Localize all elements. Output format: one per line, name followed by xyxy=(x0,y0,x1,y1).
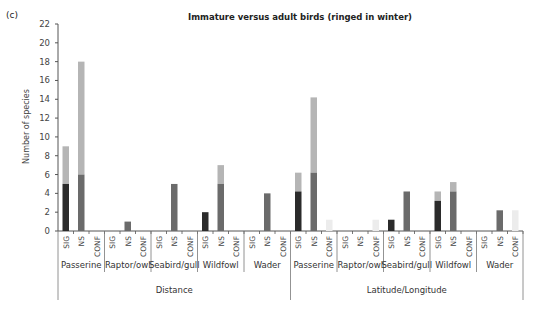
bar-lower-segment xyxy=(497,210,504,231)
x-sub-label: NS xyxy=(496,236,505,247)
x-sub-label: SIG xyxy=(294,236,303,249)
y-tick-label: 14 xyxy=(39,94,50,104)
x-group-label: Wildfowl xyxy=(435,260,471,270)
x-sub-label: NS xyxy=(170,236,179,247)
bar-upper-segment xyxy=(218,165,225,184)
x-group-label: Passerine xyxy=(293,260,334,270)
bar-lower-segment xyxy=(450,191,457,231)
y-tick-label: 6 xyxy=(45,170,50,180)
x-group-label: Passerine xyxy=(61,260,102,270)
bar-lower-segment xyxy=(388,220,395,231)
x-group-label: Raptor/owl xyxy=(337,260,383,270)
x-sub-label: CONF xyxy=(232,236,241,257)
bar-upper-segment xyxy=(78,62,85,175)
x-group-label: Wildfowl xyxy=(203,260,239,270)
bar-lower-segment xyxy=(218,184,225,231)
x-sub-label: NS xyxy=(263,236,272,247)
x-sub-label: SIG xyxy=(387,236,396,249)
x-sub-label: SIG xyxy=(480,236,489,249)
x-group-label: Seabird/gull xyxy=(149,260,200,270)
bar-upper-segment xyxy=(450,182,457,191)
x-sub-label: NS xyxy=(449,236,458,247)
y-tick-label: 12 xyxy=(39,113,50,123)
x-sub-label: NS xyxy=(124,236,133,247)
x-sub-label: CONF xyxy=(465,236,474,257)
bar-lower-segment xyxy=(295,191,302,231)
x-sub-label: SIG xyxy=(62,236,71,249)
x-sub-label: NS xyxy=(310,236,319,247)
bar-lower-segment xyxy=(78,175,85,231)
y-tick-label: 8 xyxy=(45,151,50,161)
bar-lower-segment xyxy=(311,173,318,231)
x-method-label: Distance xyxy=(156,285,193,295)
x-group-label: Seabird/gull xyxy=(381,260,432,270)
plot-area: 0246810121416182022SIGNSCONFSIGNSCONFSIG… xyxy=(0,0,540,312)
x-sub-label: CONF xyxy=(139,236,148,257)
y-axis-label: Number of species xyxy=(22,87,31,167)
bar-lower-segment xyxy=(202,212,209,231)
bar-upper-segment xyxy=(63,146,70,184)
x-sub-label: CONF xyxy=(93,236,102,257)
bar-lower-segment xyxy=(171,184,178,231)
x-sub-label: SIG xyxy=(248,236,257,249)
x-sub-label: NS xyxy=(356,236,365,247)
chart-title: Immature versus adult birds (ringed in w… xyxy=(0,12,540,22)
bar-lower-segment xyxy=(264,193,271,231)
y-tick-label: 2 xyxy=(45,207,50,217)
bar-lower-segment xyxy=(63,184,70,231)
bar-lower-segment xyxy=(404,191,411,231)
y-tick-label: 16 xyxy=(39,75,50,85)
y-tick-label: 0 xyxy=(45,226,50,236)
y-tick-label: 10 xyxy=(39,132,50,142)
bar-faint xyxy=(373,220,380,231)
bar-lower-segment xyxy=(125,222,132,231)
bar-upper-segment xyxy=(295,173,302,192)
bar-upper-segment xyxy=(311,97,318,172)
bar-chart: (c) Immature versus adult birds (ringed … xyxy=(0,0,540,312)
bar-lower-segment xyxy=(435,201,442,231)
x-group-label: Wader xyxy=(254,260,282,270)
x-sub-label: SIG xyxy=(108,236,117,249)
x-sub-label: NS xyxy=(77,236,86,247)
x-group-label: Raptor/owl xyxy=(105,260,151,270)
x-sub-label: CONF xyxy=(418,236,427,257)
x-sub-label: CONF xyxy=(186,236,195,257)
x-method-label: Latitude/Longitude xyxy=(367,285,447,295)
x-sub-label: CONF xyxy=(372,236,381,257)
x-sub-label: CONF xyxy=(511,236,520,257)
x-sub-label: CONF xyxy=(325,236,334,257)
x-sub-label: NS xyxy=(403,236,412,247)
x-group-label: Wader xyxy=(486,260,514,270)
x-sub-label: NS xyxy=(217,236,226,247)
bar-faint xyxy=(512,210,519,231)
y-tick-label: 4 xyxy=(45,188,50,198)
x-sub-label: SIG xyxy=(155,236,164,249)
bar-faint xyxy=(326,220,333,231)
y-tick-label: 20 xyxy=(39,38,50,48)
x-sub-label: SIG xyxy=(341,236,350,249)
bar-upper-segment xyxy=(435,191,442,200)
y-tick-label: 18 xyxy=(39,57,50,67)
x-sub-label: SIG xyxy=(434,236,443,249)
x-sub-label: SIG xyxy=(201,236,210,249)
x-sub-label: CONF xyxy=(279,236,288,257)
